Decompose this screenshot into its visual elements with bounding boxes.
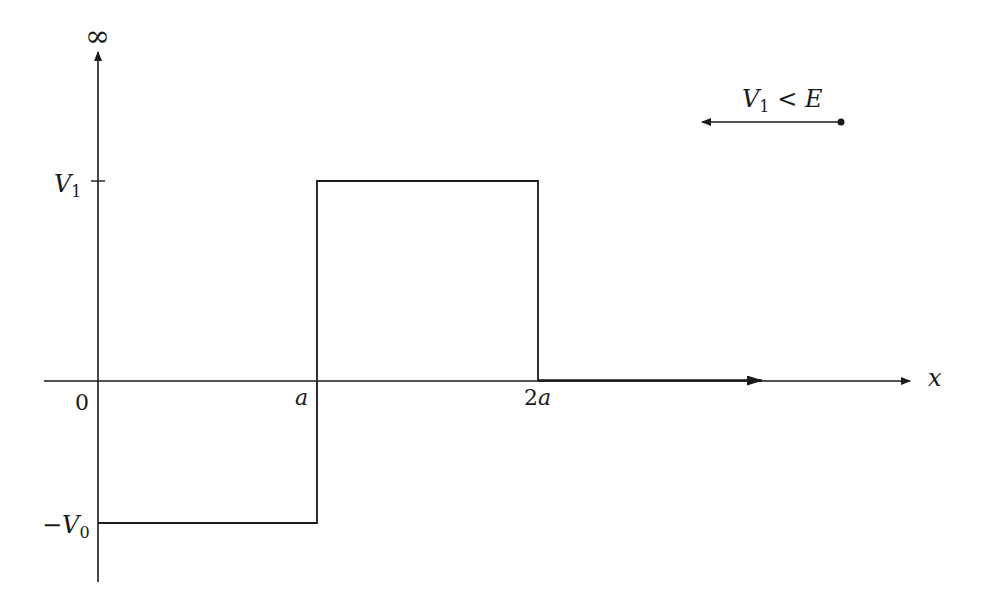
v1-label: V1 bbox=[54, 170, 82, 201]
origin-label: 0 bbox=[75, 390, 89, 415]
neg-v0-label: −V0 bbox=[42, 511, 90, 542]
a-label: a bbox=[295, 385, 308, 410]
particle-dot bbox=[838, 119, 845, 126]
x-axis-label: x bbox=[928, 364, 942, 392]
potential-diagram: ∞ V1 −V0 0 a 2a x V1 < E bbox=[0, 0, 984, 607]
potential-profile bbox=[98, 181, 538, 523]
y-axis-infinity-label: ∞ bbox=[85, 18, 110, 53]
energy-condition-label: V1 < E bbox=[742, 85, 823, 116]
two-a-label: 2a bbox=[524, 385, 551, 410]
